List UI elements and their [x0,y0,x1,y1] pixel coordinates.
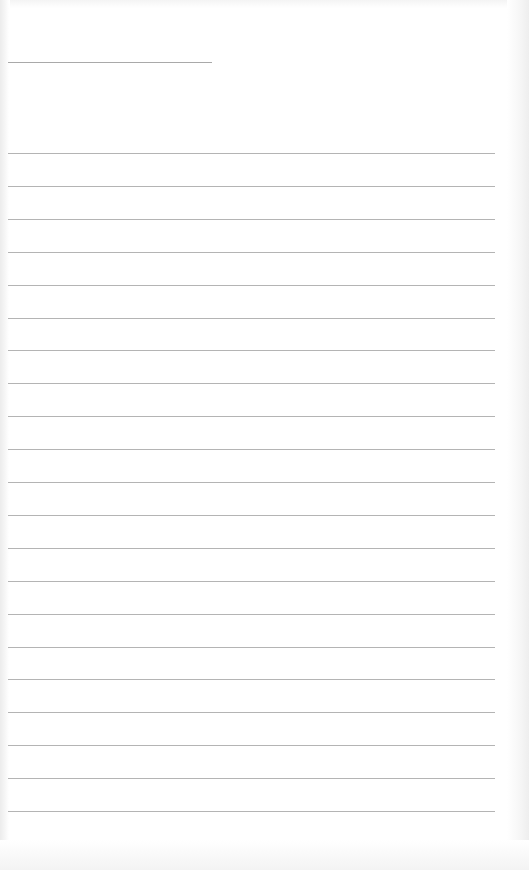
ruled-line [8,614,495,615]
ruled-line [8,745,495,746]
ruled-line [8,647,495,648]
ruled-line [8,482,495,483]
ruled-line [8,252,495,253]
ruled-line [8,350,495,351]
bottom-bleed-through [0,840,529,870]
ruled-line [8,811,495,812]
ruled-line [8,318,495,319]
header-rule [8,62,212,63]
top-bleed-through [10,0,520,8]
ruled-line [8,285,495,286]
lined-paper-page [0,0,529,870]
right-edge-shadow [507,0,529,870]
ruled-line [8,449,495,450]
ruled-line [8,219,495,220]
ruled-line [8,515,495,516]
ruled-line [8,679,495,680]
ruled-line [8,153,495,154]
ruled-line [8,383,495,384]
ruled-line [8,712,495,713]
ruled-line [8,581,495,582]
left-edge-shadow [0,0,9,870]
ruled-line [8,416,495,417]
ruled-line [8,778,495,779]
ruled-line [8,548,495,549]
ruled-line [8,186,495,187]
